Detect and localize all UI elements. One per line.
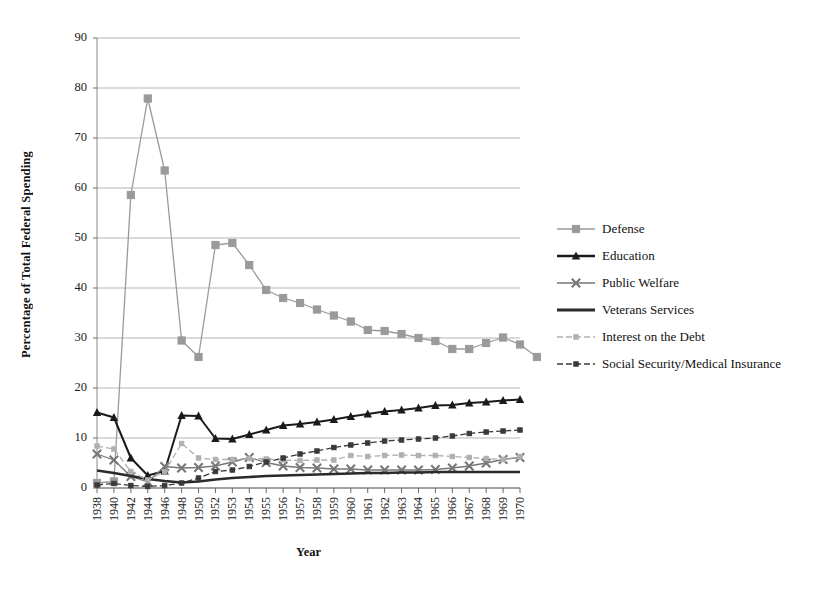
data-point (349, 443, 353, 447)
data-point (467, 431, 471, 435)
data-point (263, 286, 270, 293)
legend-item-veterans-services[interactable]: Veterans Services (556, 296, 831, 323)
x-tick-label: 1964 (412, 497, 424, 521)
data-point (298, 452, 302, 456)
legend-swatch-icon (556, 356, 596, 372)
data-point (196, 476, 200, 480)
x-tick-label: 1958 (311, 497, 323, 521)
data-point (212, 241, 219, 248)
x-tick-label: 1960 (345, 497, 357, 521)
y-tick-label: 30 (59, 331, 87, 344)
data-point (382, 439, 386, 443)
data-point (518, 454, 522, 458)
data-point (315, 458, 319, 462)
data-point (467, 455, 471, 459)
data-point (382, 453, 386, 457)
data-point (315, 449, 319, 453)
data-point (416, 437, 420, 441)
legend-item-social-security-medical-insurance[interactable]: Social Security/Medical Insurance (556, 350, 831, 377)
data-point (349, 453, 353, 457)
data-point (230, 468, 234, 472)
series-interest-on-the-debt (95, 441, 522, 482)
series-line (97, 454, 520, 482)
x-tick-label: 1967 (463, 497, 475, 521)
data-point (483, 339, 490, 346)
data-point (146, 484, 150, 488)
data-point (332, 458, 336, 462)
data-point (484, 430, 488, 434)
data-point (144, 95, 151, 102)
data-point (347, 318, 354, 325)
legend-item-public-welfare[interactable]: Public Welfare (556, 269, 831, 296)
chart-legend: DefenseEducationPublic WelfareVeterans S… (556, 215, 831, 377)
data-point (484, 456, 488, 460)
x-tick-label: 1946 (159, 497, 171, 521)
data-point (399, 453, 403, 457)
data-point (127, 191, 134, 198)
data-point (229, 239, 236, 246)
data-point (246, 261, 253, 268)
x-tick-label: 1954 (243, 497, 255, 521)
data-point (398, 330, 405, 337)
data-point (195, 353, 202, 360)
data-point (364, 326, 371, 333)
y-tick-label: 80 (59, 81, 87, 94)
data-point (110, 456, 118, 464)
data-point (415, 334, 422, 341)
y-tick-label: 60 (59, 181, 87, 194)
legend-label: Social Security/Medical Insurance (602, 356, 781, 372)
x-tick-label: 1938 (91, 497, 103, 521)
x-tick-label: 1969 (497, 497, 509, 521)
x-tick-label: 1965 (429, 497, 441, 521)
data-point (93, 408, 101, 416)
data-point (95, 444, 99, 448)
data-point (178, 337, 185, 344)
data-point (296, 299, 303, 306)
data-point (247, 464, 251, 468)
x-tick-label: 1962 (379, 497, 391, 521)
x-tick-label: 1961 (362, 497, 374, 521)
data-point (366, 454, 370, 458)
data-point (161, 167, 168, 174)
legend-item-defense[interactable]: Defense (556, 215, 831, 242)
data-point (416, 453, 420, 457)
data-point (574, 334, 578, 338)
data-point (112, 481, 116, 485)
x-tick-label: 1948 (176, 497, 188, 521)
data-point (572, 225, 579, 232)
data-point (516, 341, 523, 348)
series-defense (93, 95, 540, 487)
data-point (518, 428, 522, 432)
series-education (93, 395, 524, 479)
x-tick-label: 1944 (142, 497, 154, 521)
data-point (129, 469, 133, 473)
data-point (112, 447, 116, 451)
legend-item-education[interactable]: Education (556, 242, 831, 269)
data-point (162, 483, 166, 487)
data-point (196, 456, 200, 460)
legend-item-interest-on-the-debt[interactable]: Interest on the Debt (556, 323, 831, 350)
data-point (501, 457, 505, 461)
caption-partial (383, 572, 833, 588)
data-point (533, 353, 540, 360)
x-tick-label: 1959 (328, 497, 340, 521)
x-tick-label: 1952 (209, 497, 221, 521)
y-tick-label: 0 (59, 481, 87, 494)
data-point (313, 306, 320, 313)
y-tick-label: 10 (59, 431, 87, 444)
data-point (450, 454, 454, 458)
data-point (332, 445, 336, 449)
data-point (574, 361, 578, 365)
data-point (298, 458, 302, 462)
y-tick-label: 20 (59, 381, 87, 394)
legend-swatch-icon (556, 329, 596, 345)
data-point (162, 469, 166, 473)
data-point (450, 434, 454, 438)
legend-swatch-icon (556, 275, 596, 291)
data-point (499, 334, 506, 341)
data-point (129, 483, 133, 487)
data-point (146, 478, 150, 482)
legend-swatch-icon (556, 302, 596, 318)
legend-label: Interest on the Debt (602, 329, 705, 345)
data-point (230, 457, 234, 461)
